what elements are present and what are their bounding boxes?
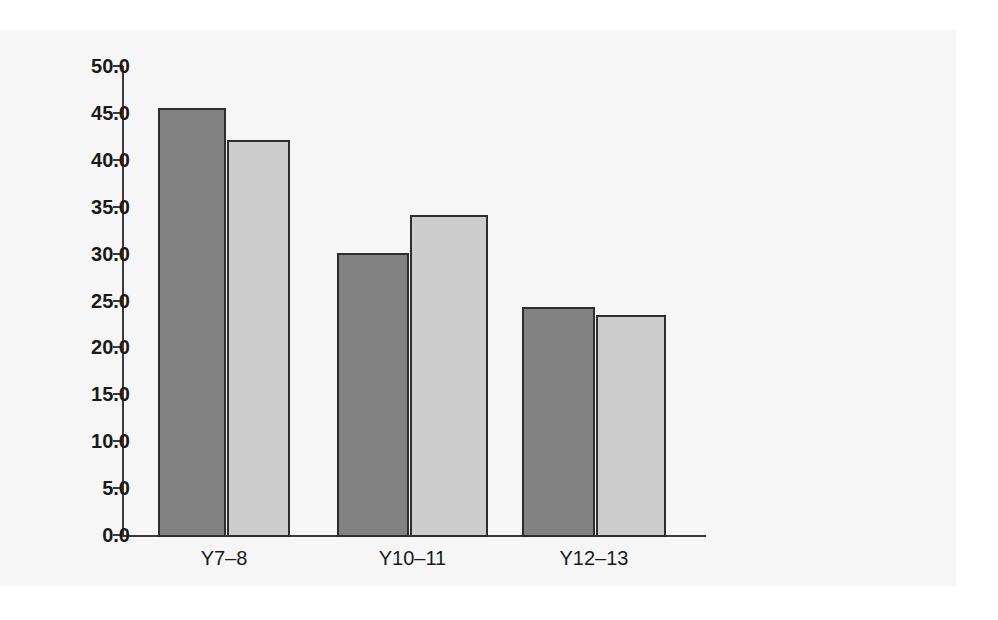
bar (522, 307, 595, 537)
x-axis-category-label: Y12–13 (524, 548, 664, 568)
bar (158, 108, 226, 537)
bar (596, 315, 666, 537)
bar (227, 140, 290, 537)
bar (337, 253, 409, 537)
bars-layer (0, 0, 998, 537)
x-axis-category-label: Y10–11 (343, 548, 483, 568)
bar-chart-figure: 0.05.010.015.020.025.030.035.040.045.050… (0, 0, 998, 620)
x-axis-category-label: Y7–8 (154, 548, 294, 568)
bar (410, 215, 488, 537)
